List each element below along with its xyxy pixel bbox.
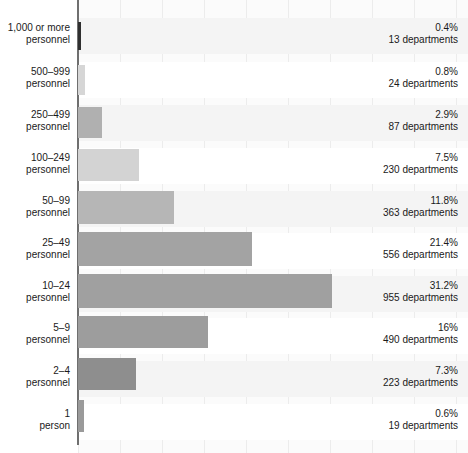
category-label: 5–9 personnel (0, 322, 70, 346)
count-label: 556 departments (383, 249, 458, 261)
category-label: 500–999 personnel (0, 66, 70, 90)
count-label: 490 departments (383, 334, 458, 346)
count-label: 24 departments (389, 78, 459, 90)
value-label-group: 7.3%223 departments (383, 365, 458, 389)
category-label: 250–499 personnel (0, 109, 70, 133)
category-label: 25–49 personnel (0, 237, 70, 261)
value-label-group: 7.5%230 departments (383, 152, 458, 176)
category-label: 2–4 personnel (0, 365, 70, 389)
horizontal-bar-chart: 1,000 or more personnel0.4%13 department… (0, 0, 468, 453)
count-label: 13 departments (389, 34, 459, 46)
category-label: 1 person (0, 408, 70, 432)
bar (78, 65, 85, 95)
percent-label: 16% (383, 322, 458, 334)
value-label-group: 2.9%87 departments (389, 109, 459, 133)
value-label-group: 21.4%556 departments (383, 237, 458, 261)
count-label: 955 departments (383, 292, 458, 304)
value-label-group: 0.4%13 departments (389, 22, 459, 46)
bar (78, 232, 252, 266)
percent-label: 7.3% (383, 365, 458, 377)
percent-label: 21.4% (383, 237, 458, 249)
bar (78, 191, 174, 224)
bar (78, 22, 81, 50)
category-label: 1,000 or more personnel (0, 22, 70, 46)
category-label: 50–99 personnel (0, 195, 70, 219)
bar (78, 274, 332, 308)
percent-label: 11.8% (383, 195, 458, 207)
percent-label: 0.4% (389, 22, 459, 34)
value-label-group: 11.8%363 departments (383, 195, 458, 219)
percent-label: 0.8% (389, 66, 459, 78)
count-label: 87 departments (389, 121, 459, 133)
percent-label: 0.6% (389, 408, 459, 420)
bar (78, 400, 84, 432)
percent-label: 7.5% (383, 152, 458, 164)
bar (78, 149, 139, 181)
bar (78, 358, 136, 390)
percent-label: 2.9% (389, 109, 459, 121)
count-label: 363 departments (383, 207, 458, 219)
count-label: 223 departments (383, 377, 458, 389)
bar (78, 316, 208, 348)
value-label-group: 16%490 departments (383, 322, 458, 346)
category-label: 10–24 personnel (0, 280, 70, 304)
percent-label: 31.2% (383, 280, 458, 292)
value-label-group: 0.6%19 departments (389, 408, 459, 432)
category-label: 100–249 personnel (0, 152, 70, 176)
value-label-group: 31.2%955 departments (383, 280, 458, 304)
bar (78, 107, 102, 138)
count-label: 19 departments (389, 420, 459, 432)
count-label: 230 departments (383, 164, 458, 176)
value-label-group: 0.8%24 departments (389, 66, 459, 90)
